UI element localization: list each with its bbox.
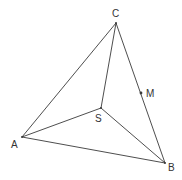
- label-a: A: [11, 139, 18, 150]
- point-m: [140, 92, 143, 95]
- edges: [22, 23, 165, 163]
- label-b: B: [168, 162, 175, 173]
- edge-ab: [22, 137, 165, 163]
- diagram-svg: A B C S M: [0, 0, 182, 180]
- label-c: C: [112, 8, 119, 19]
- point-b: [164, 162, 166, 164]
- point-c: [115, 22, 117, 24]
- tetrahedron-diagram: A B C S M: [0, 0, 182, 180]
- label-m: M: [146, 88, 154, 99]
- point-a: [21, 136, 23, 138]
- points: [21, 22, 166, 164]
- edge-sc: [101, 23, 116, 108]
- label-s: S: [95, 113, 102, 124]
- point-s: [100, 107, 102, 109]
